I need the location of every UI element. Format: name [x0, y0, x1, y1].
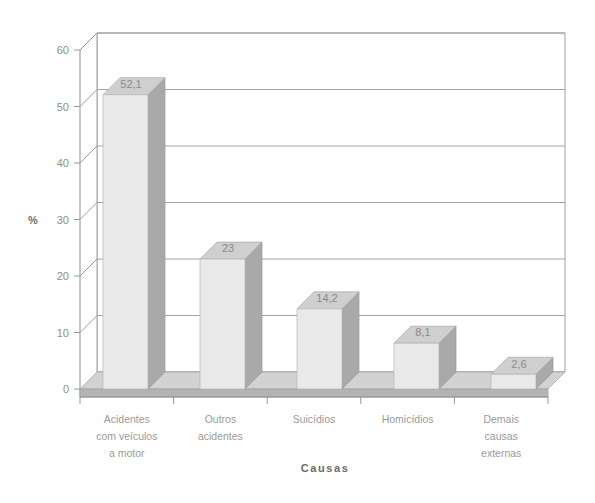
x-tick-label: com veículos	[96, 430, 157, 442]
bar-group[interactable]: 52,1	[103, 78, 165, 389]
x-tick-labels: Acidentes com veículos a motor Outros ac…	[96, 413, 521, 459]
bar-value-label: 14,2	[316, 292, 337, 304]
floor-front-face	[80, 389, 548, 397]
y-axis-title: %	[28, 214, 38, 226]
x-axis-title: Causas	[301, 462, 350, 474]
x-tick-label: a motor	[109, 447, 145, 459]
x-tick-label: Suicídios	[293, 413, 336, 425]
bar-front-face	[491, 374, 536, 389]
x-tick-label: causas	[485, 430, 518, 442]
x-tick-label: Outros	[205, 413, 237, 425]
bar-group[interactable]: 23	[200, 242, 262, 389]
bar-value-label: 2,6	[511, 358, 526, 370]
x-tick-label: Demais	[483, 413, 519, 425]
bar-side-face	[245, 242, 262, 389]
bar-front-face	[297, 309, 342, 389]
x-tick-label: externas	[481, 447, 521, 459]
bar-chart: 60 50 40 30 20 10 0 % 52,1 23	[0, 0, 595, 503]
x-tick-label: Homicídios	[382, 413, 434, 425]
y-tick-label: 50	[57, 101, 69, 113]
x-axis-ticks	[80, 397, 548, 404]
bar-group[interactable]: 14,2	[297, 292, 359, 389]
bar-side-face	[148, 78, 165, 389]
y-tick-label: 20	[57, 270, 69, 282]
bar-value-label: 23	[222, 242, 234, 254]
y-tick-label: 30	[57, 214, 69, 226]
x-tick-label: Acidentes	[104, 413, 150, 425]
y-tick-label: 40	[57, 157, 69, 169]
y-tick-label: 60	[57, 44, 69, 56]
bar-group[interactable]: 8,1	[394, 326, 456, 389]
bar-front-face	[394, 343, 439, 389]
chart-svg: 60 50 40 30 20 10 0 % 52,1 23	[0, 0, 595, 503]
y-tick-label: 10	[57, 327, 69, 339]
bar-value-label: 52,1	[120, 78, 141, 90]
y-tick-label: 0	[63, 383, 69, 395]
bar-front-face	[200, 259, 245, 389]
bar-front-face	[103, 95, 148, 389]
y-tick-labels: 60 50 40 30 20 10 0	[57, 44, 69, 395]
x-tick-label: acidentes	[198, 430, 243, 442]
bar-value-label: 8,1	[415, 326, 430, 338]
